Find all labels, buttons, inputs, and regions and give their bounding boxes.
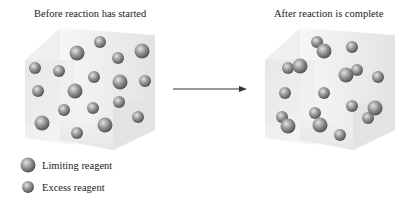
excess-reagent-sphere: [87, 102, 99, 114]
legend-label: Limiting reagent: [42, 160, 112, 171]
excess-reagent-sphere: [318, 87, 330, 99]
legend-label: Excess reagent: [42, 182, 105, 193]
excess-reagent-sphere: [132, 111, 144, 123]
before-container-box: [25, 28, 155, 150]
excess-reagent-sphere: [372, 71, 384, 83]
limiting-reagent-sphere: [70, 46, 85, 61]
excess-reagent-sphere: [282, 62, 294, 74]
excess-reagent-sphere-icon: [20, 179, 36, 195]
excess-reagent-sphere: [279, 87, 291, 99]
limiting-reagent-sphere: [293, 59, 308, 74]
excess-reagent-sphere: [29, 62, 41, 74]
limiting-reagent-sphere: [98, 118, 113, 133]
excess-reagent-sphere: [58, 104, 70, 116]
excess-reagent-sphere: [32, 85, 44, 97]
legend-item-excess: Excess reagent: [20, 179, 105, 195]
limiting-reagent-sphere: [135, 44, 150, 59]
limiting-reagent-sphere: [313, 118, 328, 133]
limiting-reagent-sphere: [113, 75, 128, 90]
excess-reagent-sphere: [346, 100, 358, 112]
limiting-reagent-sphere-icon: [20, 157, 36, 173]
before-title: Before reaction has started: [34, 8, 146, 19]
excess-reagent-sphere: [309, 107, 321, 119]
excess-reagent-sphere: [94, 36, 106, 48]
excess-reagent-sphere: [334, 129, 346, 141]
limiting-reagent-sphere: [68, 84, 83, 99]
limiting-reagent-sphere: [339, 68, 354, 83]
excess-reagent-sphere: [139, 75, 151, 87]
limiting-reagent-sphere: [317, 44, 332, 59]
limiting-reagent-sphere: [281, 119, 296, 134]
excess-reagent-sphere: [53, 65, 65, 77]
excess-reagent-sphere: [71, 127, 83, 139]
limiting-reagent-sphere: [368, 101, 383, 116]
excess-reagent-sphere: [112, 52, 124, 64]
excess-reagent-sphere: [346, 41, 358, 53]
legend-item-limiting: Limiting reagent: [20, 157, 112, 173]
excess-reagent-sphere: [113, 96, 125, 108]
after-title: After reaction is complete: [274, 8, 383, 19]
limiting-reagent-sphere: [35, 116, 50, 131]
reaction-arrow-icon: [173, 86, 247, 92]
excess-reagent-sphere: [88, 71, 100, 83]
